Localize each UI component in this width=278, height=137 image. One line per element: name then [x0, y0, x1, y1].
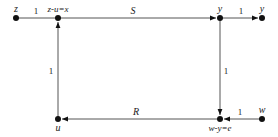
- node-y-out: [259, 15, 265, 21]
- gain-y-e: 1: [224, 66, 229, 76]
- label-node-w: w: [259, 104, 266, 115]
- node-e: [217, 116, 223, 122]
- label-node-z: z: [13, 3, 18, 14]
- label-node-y-out: y: [259, 3, 265, 14]
- node-y: [217, 15, 223, 21]
- label-node-x: z-u=x: [46, 4, 68, 14]
- gain-u-x: 1: [49, 66, 54, 76]
- gain-S: S: [131, 5, 136, 16]
- node-w: [259, 116, 265, 122]
- gain-R: R: [132, 106, 139, 117]
- label-node-u: u: [56, 122, 61, 133]
- gain-z-x: 1: [34, 6, 39, 16]
- label-node-y: y: [217, 3, 223, 14]
- label-node-e: w-y=e: [208, 123, 231, 133]
- node-z: [13, 15, 19, 21]
- gain-y-y: 1: [239, 6, 244, 16]
- signal-flow-diagram: z z-u=x y y u w-y=e w 1 S 1 1 1 R 1: [0, 0, 278, 137]
- gain-w-e: 1: [238, 107, 243, 117]
- node-x: [55, 15, 61, 21]
